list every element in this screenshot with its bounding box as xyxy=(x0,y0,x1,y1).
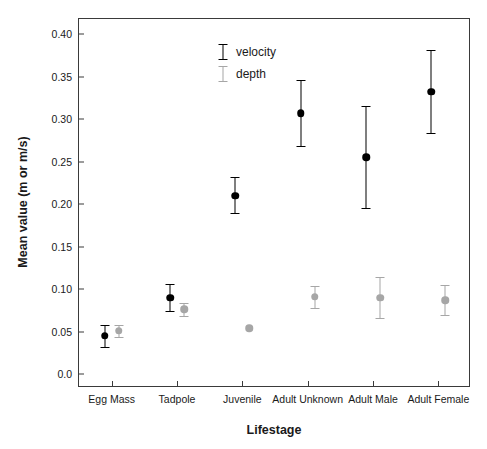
y-tick-label: 0.35 xyxy=(52,71,79,83)
data-point xyxy=(115,327,123,335)
error-bar-line xyxy=(380,277,381,318)
error-bar-cap xyxy=(441,315,450,316)
y-tick-label: 0.20 xyxy=(52,198,79,210)
x-tick-mark xyxy=(438,381,439,386)
x-tick-label: Adult Female xyxy=(407,393,469,405)
error-bar-cap xyxy=(231,213,240,214)
y-tick-label: 0.15 xyxy=(52,241,79,253)
data-point xyxy=(232,192,240,200)
error-bar-cap xyxy=(180,316,189,317)
error-bar-cap xyxy=(100,347,109,348)
data-point xyxy=(180,306,188,314)
error-bar-cap xyxy=(362,106,371,107)
error-bar-line xyxy=(431,50,432,133)
y-tick-label: 0.0 xyxy=(57,368,79,380)
error-bar-cap xyxy=(231,177,240,178)
y-tick-mark xyxy=(79,34,84,35)
data-point xyxy=(442,296,450,304)
data-point xyxy=(362,154,370,162)
x-tick-mark xyxy=(177,381,178,386)
error-bar-cap xyxy=(310,286,319,287)
x-tick-label: Juvenile xyxy=(223,393,262,405)
error-bar-line xyxy=(300,80,301,146)
error-bar-cap xyxy=(114,337,123,338)
x-tick-mark xyxy=(308,381,309,386)
x-axis-title: Lifestage xyxy=(78,423,470,437)
error-bar-line xyxy=(314,286,315,308)
error-bar-cap xyxy=(166,311,175,312)
x-tick-mark xyxy=(242,381,243,386)
error-bar-cap xyxy=(427,133,436,134)
legend-item-velocity: velocity xyxy=(215,41,333,63)
error-bar-line xyxy=(445,285,446,316)
error-bar-cap xyxy=(100,325,109,326)
error-bar-line xyxy=(170,284,171,311)
x-tick-label: Tadpole xyxy=(159,393,196,405)
error-bar-cap xyxy=(441,285,450,286)
data-point xyxy=(166,294,174,302)
x-tick-label: Adult Unknown xyxy=(272,393,343,405)
error-bar-line xyxy=(104,325,105,347)
legend: velocitydepth xyxy=(215,41,333,85)
y-tick-mark xyxy=(79,289,84,290)
data-point xyxy=(246,324,254,332)
error-bar-cap xyxy=(180,303,189,304)
error-bar-icon xyxy=(215,42,231,62)
error-bar-line xyxy=(235,177,236,214)
y-tick-mark xyxy=(79,374,84,375)
y-tick-label: 0.30 xyxy=(52,113,79,125)
error-bar-line xyxy=(118,325,119,337)
error-bar-cap xyxy=(427,50,436,51)
error-bar-cap xyxy=(362,208,371,209)
y-tick-mark xyxy=(79,204,84,205)
y-tick-mark xyxy=(79,76,84,77)
error-bar-cap xyxy=(310,308,319,309)
legend-label: velocity xyxy=(236,45,276,59)
error-bar-icon xyxy=(215,64,231,84)
error-bar-line xyxy=(184,303,185,317)
y-axis-title: Mean value (m or m/s) xyxy=(16,102,30,302)
y-tick-label: 0.05 xyxy=(52,326,79,338)
legend-item-depth: depth xyxy=(215,63,333,85)
error-bar-line xyxy=(366,106,367,208)
data-point xyxy=(428,88,436,96)
data-point xyxy=(297,109,305,117)
x-tick-mark xyxy=(373,381,374,386)
data-point xyxy=(101,332,109,340)
y-tick-mark xyxy=(79,119,84,120)
figure-canvas: Mean value (m or m/s) Lifestage 0.00.050… xyxy=(0,0,487,449)
y-tick-label: 0.40 xyxy=(52,28,79,40)
y-tick-label: 0.10 xyxy=(52,283,79,295)
plot-area: 0.00.050.100.150.200.250.300.350.40 Egg … xyxy=(78,18,470,387)
error-bar-cap xyxy=(166,284,175,285)
data-point xyxy=(376,294,384,302)
error-bar-cap xyxy=(114,325,123,326)
x-tick-mark xyxy=(112,381,113,386)
y-tick-mark xyxy=(79,246,84,247)
x-tick-label: Adult Male xyxy=(348,393,398,405)
legend-label: depth xyxy=(236,67,266,81)
error-bar-cap xyxy=(376,277,385,278)
error-bar-cap xyxy=(296,146,305,147)
y-tick-label: 0.25 xyxy=(52,156,79,168)
y-tick-mark xyxy=(79,161,84,162)
y-tick-mark xyxy=(79,331,84,332)
error-bar-cap xyxy=(376,318,385,319)
x-tick-label: Egg Mass xyxy=(88,393,135,405)
data-point xyxy=(311,293,319,301)
